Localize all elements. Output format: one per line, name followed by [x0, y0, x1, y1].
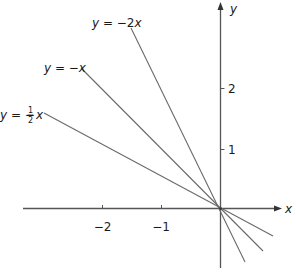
line-label-y-neg-2x: y = −2x [91, 16, 142, 30]
x-tick-neg2: −2 [94, 205, 112, 234]
y-axis: y [218, 2, 239, 268]
y-axis-label: y [229, 2, 238, 16]
y-axis-arrow-icon [218, 2, 224, 10]
x-tick-label: −2 [94, 220, 112, 234]
x-axis: x [23, 202, 293, 216]
origin-point [219, 207, 222, 210]
x-axis-arrow-icon [274, 206, 282, 212]
fraction-numerator: 1 [28, 106, 33, 115]
coordinate-graph: x y −2 −1 1 2 y = −2x y = −x [0, 0, 296, 272]
y-tick-label: 2 [228, 82, 236, 96]
line-label-y-neg-x: y = −x [43, 61, 87, 75]
line-y-neg-half-x: y = − 1 2 x [0, 106, 273, 236]
fraction-denominator: 2 [28, 116, 33, 125]
x-axis-label: x [284, 202, 293, 216]
y-tick-2: 2 [221, 82, 236, 96]
y-tick-1: 1 [221, 143, 236, 157]
y-tick-label: 1 [228, 143, 236, 157]
line-label-var: x [35, 108, 44, 122]
x-tick-neg1: −1 [152, 205, 170, 234]
x-tick-label: −1 [152, 220, 170, 234]
